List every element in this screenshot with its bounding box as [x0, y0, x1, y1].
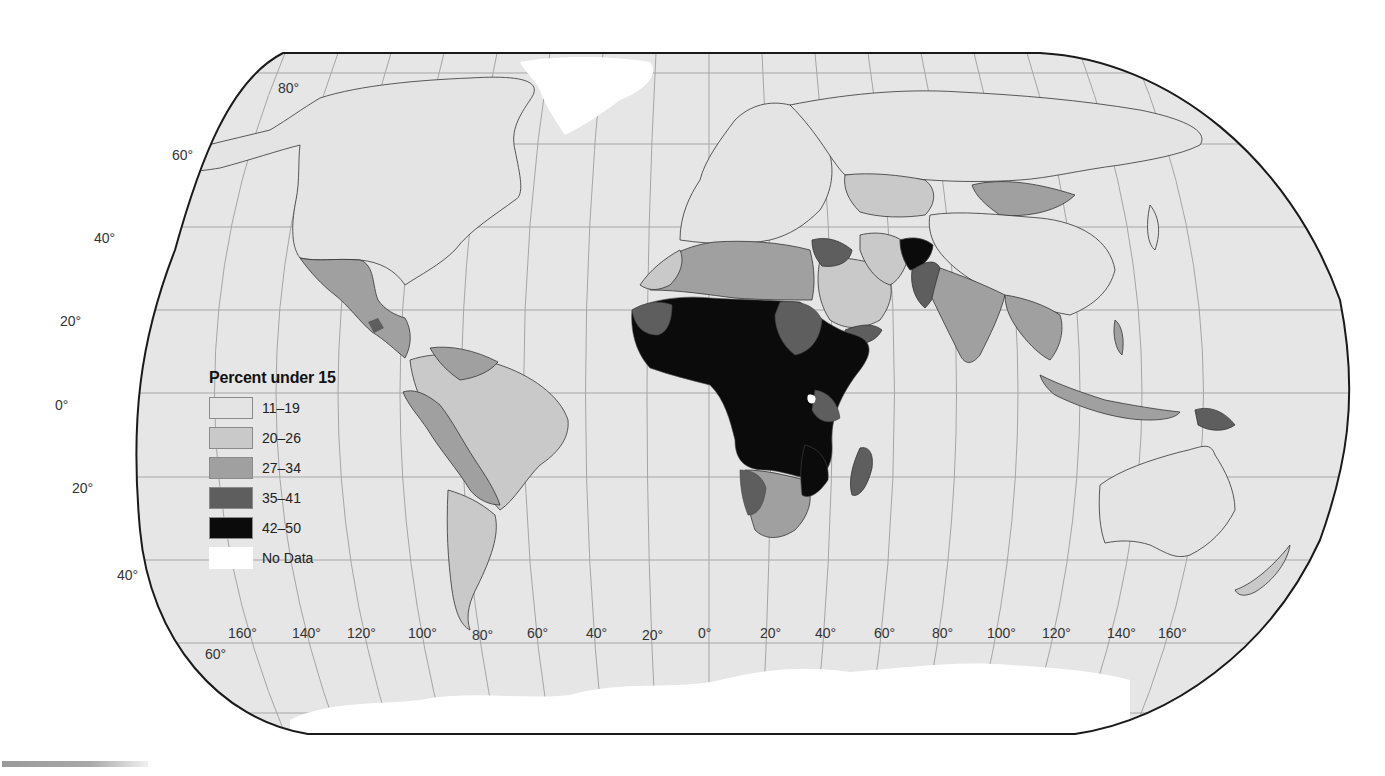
- legend-label: 20–26: [262, 430, 301, 446]
- lon-label: 160°: [1158, 625, 1187, 641]
- lat-label: 0°: [55, 397, 68, 413]
- legend-item: 27–34: [209, 453, 336, 483]
- lat-label: 20°: [72, 480, 93, 496]
- legend-swatch: [209, 547, 253, 569]
- legend-swatch: [209, 457, 253, 479]
- lon-label: 40°: [586, 625, 607, 641]
- lon-label: 120°: [1042, 625, 1071, 641]
- legend-title: Percent under 15: [209, 369, 336, 387]
- lat-label: 40°: [94, 230, 115, 246]
- legend-label: 42–50: [262, 520, 301, 536]
- legend-swatch: [209, 487, 253, 509]
- lon-label: 100°: [408, 625, 437, 641]
- lon-label: 100°: [987, 625, 1016, 641]
- lon-label: 140°: [1107, 625, 1136, 641]
- lon-label: 80°: [932, 625, 953, 641]
- legend-label: 35–41: [262, 490, 301, 506]
- bottom-strip: [2, 761, 148, 767]
- lon-label: 40°: [815, 625, 836, 641]
- lon-label: 20°: [760, 625, 781, 641]
- lon-label: 60°: [874, 625, 895, 641]
- lat-label: 40°: [117, 567, 138, 583]
- legend-item: 20–26: [209, 423, 336, 453]
- lon-label: 60°: [527, 625, 548, 641]
- lat-label: 80°: [278, 80, 299, 96]
- lon-label: 160°: [228, 625, 257, 641]
- lon-label: 80°: [472, 627, 493, 643]
- lon-label: 0°: [698, 625, 711, 641]
- legend: Percent under 15 11–19 20–26 27–34 35–41…: [209, 369, 336, 573]
- legend-label: 11–19: [262, 400, 300, 416]
- legend-item: 35–41: [209, 483, 336, 513]
- lat-label: 60°: [172, 147, 193, 163]
- legend-label: No Data: [262, 550, 313, 566]
- lat-label: 60°: [205, 646, 226, 662]
- longitude-labels: 160° 140° 120° 100° 80° 60° 40° 20° 0° 2…: [228, 625, 1187, 643]
- legend-item: 42–50: [209, 513, 336, 543]
- lon-label: 20°: [642, 627, 663, 643]
- legend-swatch: [209, 427, 253, 449]
- legend-item: 11–19: [209, 393, 336, 423]
- lon-label: 140°: [292, 625, 321, 641]
- legend-item: No Data: [209, 543, 336, 573]
- legend-swatch: [209, 397, 253, 419]
- legend-swatch: [209, 517, 253, 539]
- legend-label: 27–34: [262, 460, 301, 476]
- world-map: 80° 60° 40° 20° 0° 20° 40° 60° 160° 140°…: [0, 0, 1385, 776]
- lat-label: 20°: [60, 313, 81, 329]
- lon-label: 120°: [347, 625, 376, 641]
